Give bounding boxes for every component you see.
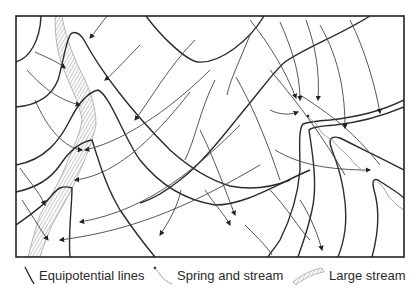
legend-label: Equipotential lines xyxy=(39,268,145,283)
legend-label: Large stream xyxy=(329,268,406,283)
spring-point xyxy=(307,115,310,118)
flow-net-diagram xyxy=(0,0,419,292)
flow-lines xyxy=(20,16,380,255)
equipotential-line-icon xyxy=(22,264,36,286)
legend-item-spring-stream: Spring and stream xyxy=(152,262,283,288)
large-stream-icon xyxy=(290,264,326,286)
legend: Equipotential lines Spring and stream La… xyxy=(0,262,419,288)
legend-label: Spring and stream xyxy=(177,268,283,283)
legend-item-large-stream: Large stream xyxy=(290,262,406,288)
spring-stream-icon xyxy=(152,264,174,286)
legend-item-equipotential: Equipotential lines xyxy=(22,262,145,288)
equipotential-lines xyxy=(16,16,404,257)
spring-streams xyxy=(308,117,404,210)
